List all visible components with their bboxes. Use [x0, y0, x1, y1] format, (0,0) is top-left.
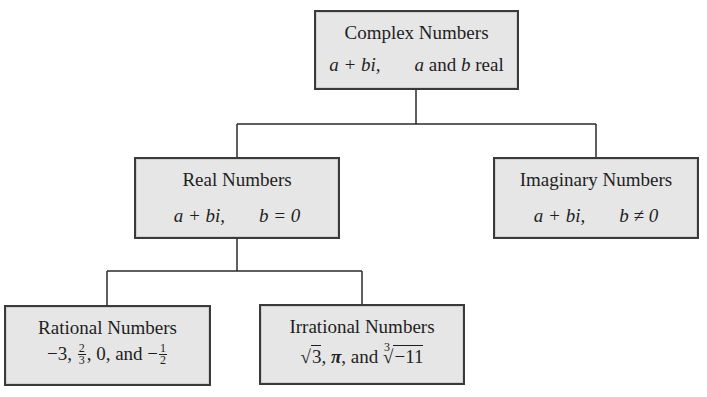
node-title: Rational Numbers — [6, 317, 209, 339]
formula-var-a: a — [415, 54, 425, 75]
example-negative-three: −3, — [47, 343, 72, 364]
formula-expression: a + bi, — [534, 205, 585, 226]
formula-expression: a + bi, — [174, 205, 225, 226]
example-zero-and: , 0, and − — [87, 343, 158, 364]
node-complex-numbers: Complex Numbers a + bi,a and b real — [314, 10, 519, 90]
cube-root-negative-eleven: 3√−11 — [383, 346, 423, 368]
node-real-numbers: Real Numbers a + bi,b = 0 — [134, 157, 340, 239]
node-formula: a + bi,a and b real — [316, 54, 517, 76]
node-examples: −3, 23, 0, and −12 — [6, 343, 209, 367]
node-irrational-numbers: Irrational Numbers √3, π, and 3√−11 — [259, 304, 465, 385]
formula-condition: b = 0 — [259, 205, 300, 226]
node-rational-numbers: Rational Numbers −3, 23, 0, and −12 — [4, 305, 211, 386]
fraction-one-half: 12 — [159, 343, 167, 366]
node-formula: a + bi,b = 0 — [136, 205, 338, 227]
node-title: Complex Numbers — [316, 22, 517, 44]
formula-and: and — [429, 54, 456, 75]
pi-symbol: π — [331, 346, 341, 367]
formula-real: real — [475, 54, 503, 75]
node-examples: √3, π, and 3√−11 — [261, 346, 463, 368]
fraction-two-thirds: 23 — [78, 343, 86, 366]
node-formula: a + bi,b ≠ 0 — [495, 205, 697, 227]
node-title: Imaginary Numbers — [495, 169, 697, 191]
node-title: Real Numbers — [136, 169, 338, 191]
node-imaginary-numbers: Imaginary Numbers a + bi,b ≠ 0 — [493, 157, 699, 239]
node-title: Irrational Numbers — [261, 316, 463, 338]
square-root-three: √3 — [301, 346, 322, 368]
formula-var-b: b — [461, 54, 471, 75]
formula-condition: b ≠ 0 — [619, 205, 658, 226]
formula-expression: a + bi, — [329, 54, 380, 75]
